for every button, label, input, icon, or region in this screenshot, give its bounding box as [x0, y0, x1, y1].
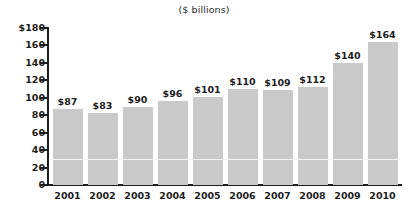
bar-slot: $90 — [123, 28, 153, 185]
bar[interactable] — [333, 63, 363, 185]
bar-slot: $140 — [333, 28, 363, 185]
x-axis-tick-label: 2005 — [190, 190, 225, 201]
x-axis-tick-label: 2001 — [50, 190, 85, 201]
x-axis-tick-label: 2007 — [260, 190, 295, 201]
plot-area: $87$83$90$96$101$110$109$112$140$164 — [50, 28, 400, 185]
bar[interactable] — [123, 107, 153, 186]
bar[interactable] — [53, 109, 83, 185]
x-axis-tick-label: 2004 — [155, 190, 190, 201]
bar[interactable] — [368, 42, 398, 185]
bar-slot: $109 — [263, 28, 293, 185]
y-axis-tick-label: 80 — [0, 109, 45, 120]
bar[interactable] — [263, 90, 293, 185]
x-axis-tick-label: 2002 — [85, 190, 120, 201]
x-axis-tick-label: 2008 — [295, 190, 330, 201]
chart-gridline — [50, 159, 400, 160]
x-axis-tick-label: 2003 — [120, 190, 155, 201]
y-axis-tick-label: $180 — [0, 22, 45, 33]
bar-value-label: $140 — [325, 50, 371, 61]
y-axis-tick-label: 100 — [0, 92, 45, 103]
y-axis-tick-label: 0 — [0, 179, 45, 190]
bar-value-label: $164 — [360, 29, 406, 40]
bar-value-label: $112 — [290, 74, 336, 85]
y-axis-tick-label: 140 — [0, 57, 45, 68]
x-axis-tick-label: 2009 — [330, 190, 365, 201]
bar[interactable] — [158, 101, 188, 185]
bar-slot: $110 — [228, 28, 258, 185]
bar[interactable] — [298, 87, 328, 185]
y-axis-tick-label: 20 — [0, 162, 45, 173]
x-axis-tick-label: 2006 — [225, 190, 260, 201]
x-axis-tick-label: 2010 — [365, 190, 400, 201]
y-axis-tick-label: 60 — [0, 127, 45, 138]
bar[interactable] — [228, 89, 258, 185]
y-axis-tick-label: 160 — [0, 39, 45, 50]
chart-title: ($ billions) — [0, 4, 408, 15]
bar[interactable] — [193, 97, 223, 185]
bar-slot: $87 — [53, 28, 83, 185]
bar-slot: $164 — [368, 28, 398, 185]
bar-slot: $96 — [158, 28, 188, 185]
bar-chart: ($ billions) $180160140120100806040200 $… — [0, 0, 408, 216]
bar-slot: $101 — [193, 28, 223, 185]
bar-slot: $83 — [88, 28, 118, 185]
y-axis-tick-label: 120 — [0, 74, 45, 85]
bar-slot: $112 — [298, 28, 328, 185]
y-axis-tick-label: 40 — [0, 144, 45, 155]
bar[interactable] — [88, 113, 118, 185]
